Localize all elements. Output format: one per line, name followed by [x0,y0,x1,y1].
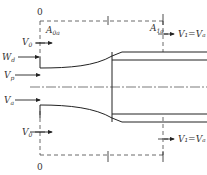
area-inlet-label: A0a [45,25,60,36]
outlet-velocity-bottom-label: V₁=Vₐ [178,134,206,144]
section-label-0-bottom: 0 [37,162,43,172]
velocity-vp-label: Vp [4,70,15,82]
section-label-0-top: 0 [37,7,43,17]
velocity-v0-bottom-label: V0 [22,127,33,138]
control-volume-boundary [40,21,163,155]
velocity-v0-top-label: V0 [22,37,33,48]
area-outlet-label: A1a [149,23,164,34]
diagram-canvas: 0 0 A0a A1a V0 Wd Vp Va V0 V₁=Vₐ V₁=Vₐ [0,0,207,175]
flow-w-label: Wd [2,52,15,63]
flow-arrows [15,34,174,139]
section-ticks [35,14,168,162]
velocity-va-label: Va [4,95,15,106]
outlet-velocity-top-label: V₁=Vₐ [178,29,206,39]
